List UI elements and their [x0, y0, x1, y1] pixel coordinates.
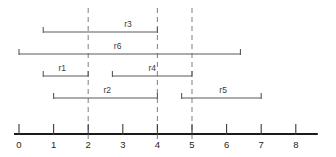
interval-label-r1: r1	[50, 63, 74, 73]
axis-tick-label-3: 3	[115, 139, 131, 150]
axis-tick-label-7: 7	[253, 139, 269, 150]
interval-label-r2: r2	[95, 85, 119, 95]
interval-label-r4: r4	[140, 63, 164, 73]
interval-label-r6: r6	[106, 41, 130, 51]
interval-label-r3: r3	[116, 19, 140, 29]
axis-tick-label-4: 4	[149, 139, 165, 150]
axis-tick-label-8: 8	[288, 139, 304, 150]
diagram-canvas	[0, 0, 336, 157]
axis-tick-label-1: 1	[46, 139, 62, 150]
dashed-gridline-group	[88, 8, 192, 141]
axis-tick-label-5: 5	[184, 139, 200, 150]
axis-tick-label-6: 6	[219, 139, 235, 150]
plot-area: 012345678 r3r6r1r4r2r5	[0, 0, 336, 157]
interval-diagram: 012345678 r3r6r1r4r2r5	[0, 0, 336, 157]
interval-label-r5: r5	[211, 85, 235, 95]
axis-tick-label-2: 2	[80, 139, 96, 150]
axis-tick-label-0: 0	[11, 139, 27, 150]
axis-group	[14, 124, 318, 135]
